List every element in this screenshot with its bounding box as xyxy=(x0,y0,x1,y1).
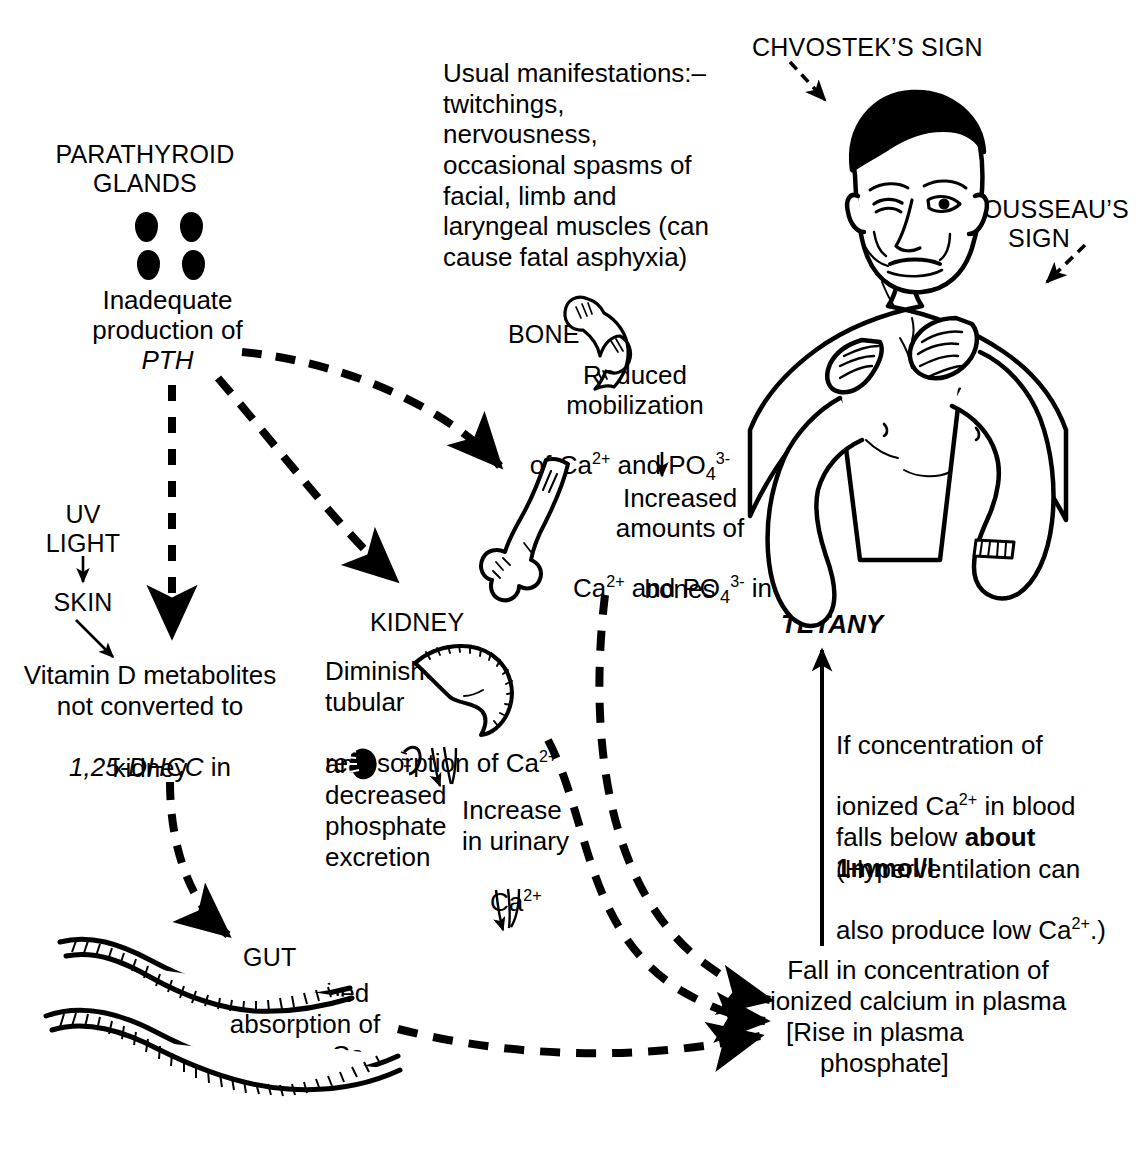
rm-po-charge: 3- xyxy=(716,450,730,468)
vitamin-d-line2: not converted to xyxy=(0,691,300,721)
usual-manifestations-text: Usual manifestations:– twitchings, nervo… xyxy=(443,58,743,273)
fall-concentration-line1: Fall in concentration of xyxy=(768,955,1068,985)
connector-bones-to-fall xyxy=(599,595,770,1000)
connector-skin-to-vitamin-d xyxy=(76,620,113,657)
tetany-label: TETANY xyxy=(781,609,883,639)
diminished-tubular-line4: and xyxy=(325,749,368,779)
rm-po-sub: 4 xyxy=(706,464,716,484)
tn-hyperv: also produce low Ca xyxy=(836,915,1072,945)
connector-chvostek-pointer xyxy=(790,62,825,100)
parathyroid-glands-label: PARATHYROID GLANDS xyxy=(30,140,260,198)
skin-label: SKIN xyxy=(18,588,148,617)
increase-urinary-line2: in urinary xyxy=(462,826,569,856)
connector-kidney-to-fall xyxy=(548,740,766,1021)
tn-about: about xyxy=(965,822,1036,852)
diminished-absorption-line3: dietary Ca xyxy=(195,1040,415,1070)
diminished-tubular-line6: phosphate xyxy=(325,811,446,841)
inadequate-pth-line3: PTH xyxy=(45,345,290,375)
connector-gut-to-fall xyxy=(398,1029,760,1053)
trousseau-sign-label: TROUSSEAU’S SIGN xyxy=(944,195,1134,253)
connector-pth-to-kidney xyxy=(218,378,396,580)
vitamin-d-line1: Vitamin D metabolites xyxy=(0,660,300,690)
gut-label: GUT xyxy=(243,943,296,972)
iu-ca-charge: 2+ xyxy=(523,887,541,905)
chvostek-sign-label: CHVOSTEK’S SIGN xyxy=(752,33,983,62)
increased-amounts-line4: bones xyxy=(570,574,790,604)
reduced-mobilization-line2: mobilization xyxy=(520,390,750,420)
dt-ca-charge: 2+ xyxy=(539,748,557,766)
parathyroid-glands-icon xyxy=(135,212,207,284)
tetany-note-line5: (Hyperventilation can xyxy=(836,854,1080,884)
increased-amounts-line1: Increased xyxy=(570,483,790,513)
reduced-mobilization-line3: of Ca2+ and PO43- xyxy=(505,420,755,485)
diminished-tubular-line1: Diminished xyxy=(325,656,454,686)
bone-label: BONE xyxy=(508,320,580,349)
tn-close: .) xyxy=(1090,915,1106,945)
diminished-absorption-line2: absorption of xyxy=(195,1009,415,1039)
diminished-tubular-line5: decreased xyxy=(325,780,446,810)
fall-concentration-line3: [Rise in plasma xyxy=(786,1017,964,1047)
tn-lowca-charge: 2+ xyxy=(1072,915,1090,933)
diminished-absorption-line1: Diminished xyxy=(195,978,415,1008)
increased-amounts-line2: amounts of xyxy=(570,513,790,543)
fall-concentration-line2: ionized calcium in plasma xyxy=(768,986,1068,1016)
inadequate-pth-line2: production of xyxy=(45,315,290,345)
tetany-note-line6: also produce low Ca2+.) xyxy=(836,885,1106,945)
increase-urinary-line3: Ca2+ xyxy=(490,857,542,917)
kidney-label: KIDNEY xyxy=(370,608,464,637)
diminished-tubular-line7: excretion xyxy=(325,842,431,872)
diminished-tubular-line2: tubular xyxy=(325,687,405,717)
reduced-mobilization-line1: Reduced xyxy=(520,360,750,390)
iu-ca: Ca xyxy=(490,887,523,917)
rm-po: and PO xyxy=(610,450,705,480)
tetany-note-line1: If concentration of xyxy=(836,730,1043,760)
rm-ca-charge: 2+ xyxy=(592,450,610,468)
inadequate-pth-line1: Inadequate xyxy=(45,285,290,315)
fall-concentration-line4: phosphate] xyxy=(820,1048,949,1078)
vitamin-d-line4: kidney xyxy=(0,753,300,783)
increase-urinary-line1: Increase xyxy=(462,795,562,825)
rm-ca: of Ca xyxy=(530,450,592,480)
connector-vitamin-d-to-gut xyxy=(170,782,228,935)
uv-light-label: UV LIGHT xyxy=(18,500,148,558)
diagram-canvas: PARATHYROID GLANDS Inadequate production… xyxy=(0,0,1143,1158)
